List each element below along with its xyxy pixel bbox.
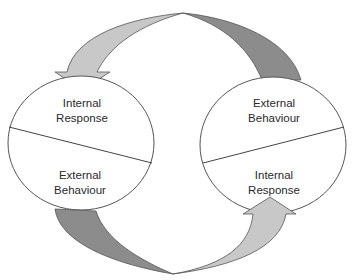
bottom-arrow-head [173,197,296,274]
right-top-label-line1: External [253,97,295,109]
left-bottom-label-line1: External [59,169,101,181]
left-top-label-line1: Internal [63,97,101,109]
right-bottom-label-line1: Internal [255,169,293,181]
bottom-arrow-tail [55,209,173,274]
left-top-label-line2: Response [56,112,108,124]
cycle-diagram: Internal Response External Behaviour Ext… [0,0,353,280]
right-bottom-label-line2: Response [248,184,300,196]
right-top-label-line2: Behaviour [248,112,300,124]
left-bottom-label-line2: Behaviour [54,184,106,196]
top-arrow-tail [183,13,301,80]
